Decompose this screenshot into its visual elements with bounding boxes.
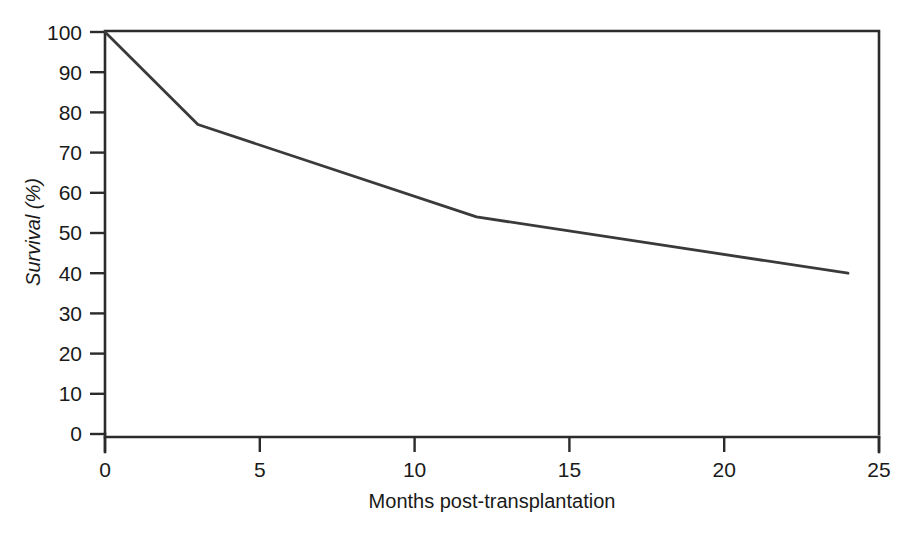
y-tick-label-30: 30 <box>59 302 82 325</box>
survival-curve <box>105 32 848 273</box>
x-tick-label-5: 5 <box>254 458 266 481</box>
x-axis-tick-labels: 0 5 10 15 20 25 <box>99 458 891 481</box>
y-tick-label-60: 60 <box>59 181 82 204</box>
y-tick-label-90: 90 <box>59 61 82 84</box>
survival-chart-figure: 0 10 20 30 40 50 60 70 80 90 100 0 5 10 … <box>0 0 912 536</box>
y-tick-label-50: 50 <box>59 221 82 244</box>
y-axis-tick-labels: 0 10 20 30 40 50 60 70 80 90 100 <box>47 21 82 445</box>
y-axis-ticks <box>90 32 105 434</box>
x-tick-label-0: 0 <box>99 458 111 481</box>
y-tick-label-40: 40 <box>59 262 82 285</box>
plot-frame <box>105 31 879 452</box>
y-axis-title: Survival (%) <box>22 178 44 286</box>
y-tick-label-100: 100 <box>47 21 82 44</box>
x-tick-label-10: 10 <box>403 458 426 481</box>
chart-canvas: 0 10 20 30 40 50 60 70 80 90 100 0 5 10 … <box>0 0 912 536</box>
y-tick-label-10: 10 <box>59 382 82 405</box>
y-tick-label-20: 20 <box>59 342 82 365</box>
x-axis-title: Months post-transplantation <box>369 490 616 512</box>
y-tick-label-80: 80 <box>59 101 82 124</box>
x-axis-ticks <box>105 437 879 452</box>
y-tick-label-0: 0 <box>70 422 82 445</box>
x-tick-label-20: 20 <box>713 458 736 481</box>
x-tick-label-15: 15 <box>558 458 581 481</box>
x-tick-label-25: 25 <box>867 458 890 481</box>
frame-path <box>105 31 879 434</box>
y-tick-label-70: 70 <box>59 141 82 164</box>
